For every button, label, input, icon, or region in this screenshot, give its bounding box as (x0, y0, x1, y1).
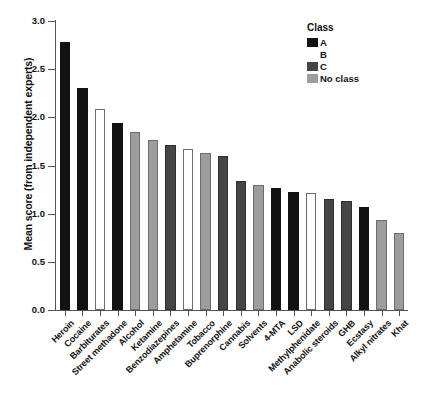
y-tick-label: 1.0 (32, 208, 45, 219)
x-tick (258, 311, 259, 316)
legend-items: ABCNo class (307, 37, 359, 84)
bar-4-mta (271, 188, 282, 310)
y-tick (48, 69, 55, 70)
legend-item-label: No class (320, 74, 359, 84)
bar-heroin (60, 42, 71, 310)
legend-swatch-icon (307, 50, 318, 59)
y-tick-label: 1.5 (32, 160, 45, 171)
y-tick-label: 2.5 (32, 63, 45, 74)
legend-item-label: A (320, 38, 327, 48)
bar-amphetamine (183, 149, 194, 310)
x-tick (382, 311, 383, 316)
legend-item-no-class: No class (307, 73, 359, 84)
bar-cocaine (77, 88, 88, 310)
y-tick-label: 2.0 (32, 111, 45, 122)
bar-ghb (341, 201, 352, 310)
x-tick (65, 311, 66, 316)
x-tick (118, 311, 119, 316)
x-tick (399, 311, 400, 316)
x-axis-line (55, 310, 408, 311)
legend-swatch-icon (307, 74, 318, 83)
bar-street-methadone (112, 123, 123, 310)
y-tick (48, 21, 55, 22)
x-tick (329, 311, 330, 316)
x-tick (241, 311, 242, 316)
y-tick (48, 166, 55, 167)
y-tick (48, 214, 55, 215)
y-tick-label: 0.0 (32, 304, 45, 315)
bar-benzodiazepines (165, 145, 176, 310)
x-tick (364, 311, 365, 316)
x-tick (82, 311, 83, 316)
y-tick-label: 0.5 (32, 256, 45, 267)
y-tick (48, 117, 55, 118)
legend-item-label: B (320, 50, 327, 60)
bar-tobacco (200, 153, 211, 310)
bar-khat (394, 233, 405, 310)
x-tick (311, 311, 312, 316)
x-tick (346, 311, 347, 316)
x-tick (294, 311, 295, 316)
bar-lsd (288, 192, 299, 310)
legend-item-label: C (320, 62, 327, 72)
x-tick-label: Khat (389, 318, 410, 339)
x-tick (153, 311, 154, 316)
y-tick-label: 3.0 (32, 15, 45, 26)
bar-buprenorphine (218, 156, 229, 310)
x-tick (276, 311, 277, 316)
legend-item-a: A (307, 37, 359, 48)
bar-solvents (253, 185, 264, 310)
y-tick (48, 310, 55, 311)
x-tick (135, 311, 136, 316)
legend-item-b: B (307, 49, 359, 60)
x-tick (100, 311, 101, 316)
x-tick (188, 311, 189, 316)
bar-alcohol (130, 132, 141, 310)
bar-ecstasy (359, 207, 370, 310)
legend-title: Class (307, 22, 359, 33)
x-tick (206, 311, 207, 316)
bar-cannabis (236, 181, 247, 310)
bar-alkyl-nitrates (376, 220, 387, 310)
legend-swatch-icon (307, 38, 318, 47)
legend-item-c: C (307, 61, 359, 72)
x-tick (170, 311, 171, 316)
bar-chart-figure: Mean score (from independent experts) 0.… (0, 0, 424, 399)
x-tick (223, 311, 224, 316)
bar-barbiturates (95, 109, 106, 310)
bar-methylphenidate (306, 193, 317, 310)
legend: Class ABCNo class (307, 22, 359, 85)
y-tick (48, 262, 55, 263)
bar-ketamine (148, 140, 159, 310)
bar-anabolic-steroids (324, 199, 335, 310)
legend-swatch-icon (307, 62, 318, 71)
